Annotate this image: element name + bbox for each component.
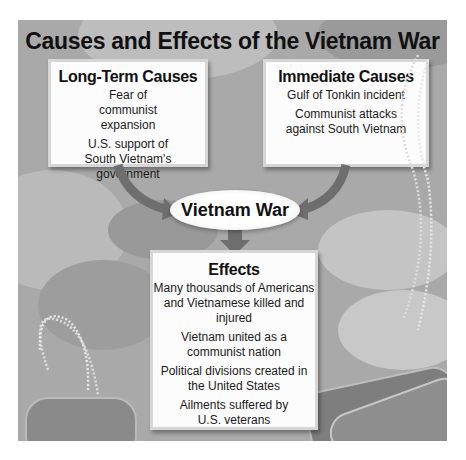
vietnam-war-node: Vietnam War (170, 190, 300, 230)
arrow-immediate-to-war (302, 165, 346, 210)
diagram-panel: Causes and Effects of the Vietnam War Lo… (18, 20, 447, 441)
effect-item: Political divisions created in the Unite… (153, 364, 315, 394)
dog-tag-chain-right (418, 60, 431, 330)
effects-box: Effects Many thousands of Americans and … (150, 250, 318, 430)
arrow-long-term-to-war (118, 165, 168, 210)
dog-tag-chain-left (40, 319, 98, 395)
effects-heading: Effects (153, 261, 315, 279)
effect-item: Ailments suffered by U.S. veterans (153, 398, 315, 428)
dog-tag-chain-right (402, 55, 421, 320)
dog-tag-left (26, 398, 136, 441)
effect-item: Many thousands of Americans and Vietname… (153, 281, 315, 326)
dog-tag-chain-left (40, 316, 88, 390)
effect-item: Vietnam united as a communist nation (153, 330, 315, 360)
